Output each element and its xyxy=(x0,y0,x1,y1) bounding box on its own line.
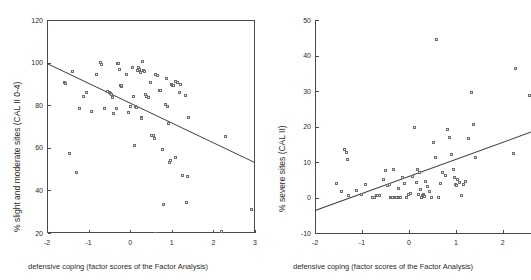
data-point xyxy=(165,77,168,80)
data-point xyxy=(435,38,438,41)
data-point xyxy=(187,116,190,119)
data-point xyxy=(129,105,132,108)
chart-panel-right: % severe sites (CAL II) -1001020304050 -… xyxy=(265,0,531,280)
figure-root: % slight and moderate sites (CAL II 0-4)… xyxy=(0,0,531,280)
data-point xyxy=(95,73,98,76)
data-point xyxy=(147,96,150,99)
data-point xyxy=(418,171,421,174)
right-y-tick-mark xyxy=(316,56,319,57)
data-point xyxy=(132,95,135,98)
right-y-tick-label: -10 xyxy=(281,230,311,237)
left-y-tick-label: 60 xyxy=(13,144,43,151)
right-y-tick-mark xyxy=(316,91,319,92)
right-x-tick-mark xyxy=(456,230,457,233)
chart-panel-left: % slight and moderate sites (CAL II 0-4)… xyxy=(0,0,266,280)
left-x-tick-mark xyxy=(255,230,256,233)
right-plot-area xyxy=(315,20,531,233)
data-point xyxy=(378,194,381,197)
data-point xyxy=(450,153,453,156)
data-point xyxy=(167,122,170,125)
right-y-tick-mark xyxy=(316,127,319,128)
left-y-tick-mark xyxy=(48,105,51,106)
data-point xyxy=(437,196,440,199)
data-point xyxy=(419,188,422,191)
data-point xyxy=(115,107,118,110)
right-x-tick-mark xyxy=(409,230,410,233)
data-point xyxy=(415,181,418,184)
right-x-tick-label: 2 xyxy=(488,239,518,246)
data-point xyxy=(118,68,121,71)
data-point xyxy=(117,62,120,65)
right-y-tick-label: 40 xyxy=(281,52,311,59)
data-point xyxy=(174,156,177,159)
data-point xyxy=(345,151,348,154)
data-point xyxy=(103,107,106,110)
data-point xyxy=(131,66,134,69)
data-point xyxy=(140,117,143,120)
right-regression-line xyxy=(315,131,531,210)
left-y-tick-label: 100 xyxy=(13,59,43,66)
data-point xyxy=(392,168,395,171)
data-point xyxy=(432,141,435,144)
data-point xyxy=(78,107,81,110)
data-point xyxy=(64,82,67,85)
data-point xyxy=(512,152,515,155)
data-point xyxy=(335,182,338,185)
data-point xyxy=(472,123,475,126)
right-y-tick-mark xyxy=(316,198,319,199)
data-point xyxy=(528,94,531,97)
right-x-tick-label: -2 xyxy=(300,239,330,246)
left-x-tick-mark xyxy=(213,230,214,233)
right-x-axis-line xyxy=(315,233,531,234)
data-point xyxy=(382,178,385,181)
left-y-tick-label: 80 xyxy=(13,102,43,109)
right-y-tick-label: 20 xyxy=(281,123,311,130)
data-point xyxy=(224,135,227,138)
data-point xyxy=(184,94,187,97)
data-point xyxy=(111,96,114,99)
left-regression-line xyxy=(47,63,255,163)
right-y-tick-label: 0 xyxy=(281,194,311,201)
data-point xyxy=(141,60,144,63)
data-point xyxy=(455,184,458,187)
data-point xyxy=(460,194,463,197)
data-point xyxy=(162,203,165,206)
data-point xyxy=(411,175,414,178)
right-y-tick-mark xyxy=(316,162,319,163)
left-x-tick-mark xyxy=(172,230,173,233)
right-y-tick-label: 50 xyxy=(281,17,311,24)
left-y-tick-label: 120 xyxy=(13,17,43,24)
data-point xyxy=(100,63,103,66)
data-point xyxy=(166,105,169,108)
data-point xyxy=(428,190,431,193)
data-point xyxy=(388,183,391,186)
data-point xyxy=(448,136,451,139)
data-point xyxy=(458,181,461,184)
data-point xyxy=(444,174,447,177)
right-x-tick-mark xyxy=(315,230,316,233)
data-point xyxy=(346,158,349,161)
left-x-tick-mark xyxy=(89,230,90,233)
data-point xyxy=(153,137,156,140)
data-point xyxy=(179,83,182,86)
data-point xyxy=(364,183,367,186)
data-point xyxy=(125,73,128,76)
left-y-tick-label: 40 xyxy=(13,187,43,194)
data-point xyxy=(85,91,88,94)
data-point xyxy=(409,192,412,195)
data-point xyxy=(384,169,387,172)
data-point xyxy=(446,128,449,131)
data-point xyxy=(149,81,152,84)
data-point xyxy=(452,168,455,171)
data-point xyxy=(426,185,429,188)
data-point xyxy=(397,187,400,190)
data-point xyxy=(474,156,477,159)
data-point xyxy=(464,180,467,183)
data-point xyxy=(250,208,253,211)
data-point xyxy=(75,171,78,174)
left-x-tick-label: 2 xyxy=(198,239,228,246)
left-y-tick-mark xyxy=(48,63,51,64)
right-x-tick-mark xyxy=(362,230,363,233)
right-x-tick-label: 0 xyxy=(394,239,424,246)
data-point xyxy=(181,174,184,177)
